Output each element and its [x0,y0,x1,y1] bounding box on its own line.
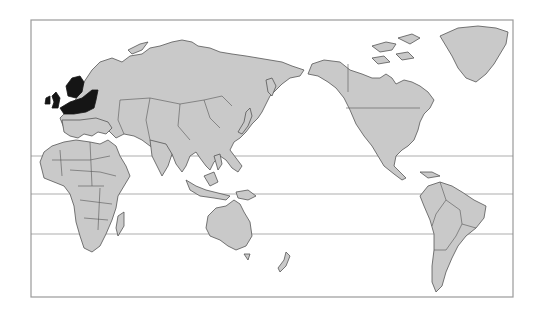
tasmania [244,254,250,260]
caribbean [420,172,440,178]
north-america [308,60,434,180]
south-america [420,182,486,292]
africa [40,140,130,252]
madagascar [116,212,124,236]
highlight-great-britain [52,92,60,108]
arctic-islands [372,34,420,64]
southern-europe [62,118,112,138]
new-guinea [236,190,256,200]
highlight-ireland [45,96,50,104]
new-zealand [278,252,290,272]
borneo [204,172,218,186]
australia [206,200,252,250]
greenland [440,26,508,82]
world-map: Northern Europe [0,0,543,314]
philippines [214,154,222,170]
